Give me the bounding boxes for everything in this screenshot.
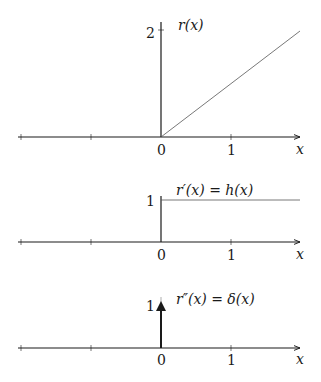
- function-label: r′(x) = h(x): [176, 182, 253, 198]
- function-label: r(x): [178, 17, 204, 33]
- panel-step: 1 r′(x) = h(x) 0 1 x: [18, 182, 304, 263]
- x-tick-label-1: 1: [227, 142, 236, 158]
- x-axis-label: x: [296, 141, 304, 157]
- x-axis-label: x: [296, 246, 304, 262]
- x-tick-label-1: 1: [227, 352, 236, 368]
- x-tick-label-1: 1: [227, 247, 236, 263]
- y-tick-label: 1: [146, 193, 155, 209]
- function-label: r″(x) = δ(x): [176, 291, 255, 307]
- panel-delta: 1 r″(x) = δ(x) 0 1 x: [18, 291, 304, 368]
- x-tick-label-0: 0: [157, 352, 166, 368]
- x-tick-label-0: 0: [157, 247, 166, 263]
- ramp-curve: [161, 31, 300, 137]
- x-tick-label-0: 0: [157, 142, 166, 158]
- y-tick-label: 1: [146, 298, 155, 314]
- y-tick-label: 2: [146, 25, 155, 41]
- panel-ramp: 2 r(x) 0 1 x: [18, 17, 304, 158]
- derivative-diagram: 2 r(x) 0 1 x 1 r′(x) = h(x) 0 1 x 1 r″(x…: [0, 0, 321, 382]
- x-axis-label: x: [296, 351, 304, 367]
